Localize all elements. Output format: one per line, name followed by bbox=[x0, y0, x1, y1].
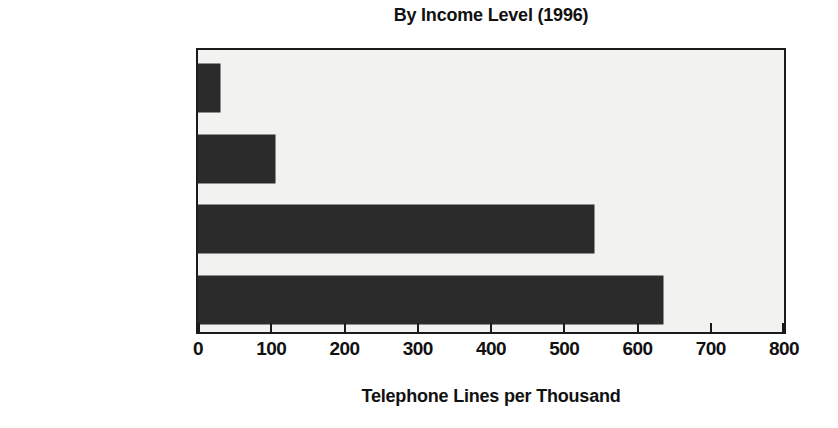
x-tick-label-500: 500 bbox=[534, 338, 594, 360]
x-tick-label-0: 0 bbox=[168, 338, 228, 360]
bar-fill bbox=[198, 276, 663, 324]
bar-low-income bbox=[198, 64, 220, 112]
chart-title: By Income Level (1996) bbox=[0, 4, 838, 26]
x-tick-label-700: 700 bbox=[681, 338, 741, 360]
x-tick-label-200: 200 bbox=[315, 338, 375, 360]
x-tick-mark bbox=[563, 323, 565, 332]
plot-area bbox=[196, 48, 786, 334]
x-tick-mark bbox=[270, 323, 272, 332]
bar-middle-income bbox=[198, 135, 275, 183]
chart-figure: By Income Level (1996) Telephone Lines p… bbox=[0, 0, 838, 428]
x-tick-label-100: 100 bbox=[241, 338, 301, 360]
bar-fill bbox=[198, 64, 220, 112]
x-tick-mark bbox=[490, 323, 492, 332]
x-tick-mark bbox=[637, 323, 639, 332]
x-tick-label-800: 800 bbox=[754, 338, 814, 360]
x-tick-mark bbox=[710, 323, 712, 332]
plot-inner bbox=[198, 50, 784, 332]
x-tick-mark bbox=[344, 323, 346, 332]
x-tick-label-400: 400 bbox=[461, 338, 521, 360]
x-tick-mark bbox=[198, 323, 200, 332]
x-tick-label-300: 300 bbox=[388, 338, 448, 360]
x-tick-mark bbox=[782, 323, 784, 332]
bar-united-states bbox=[198, 276, 663, 324]
bar-high-income bbox=[198, 205, 594, 253]
bar-fill bbox=[198, 135, 275, 183]
x-tick-mark bbox=[417, 323, 419, 332]
x-tick-label-600: 600 bbox=[608, 338, 668, 360]
bar-fill bbox=[198, 205, 594, 253]
x-axis-title: Telephone Lines per Thousand bbox=[196, 386, 786, 407]
